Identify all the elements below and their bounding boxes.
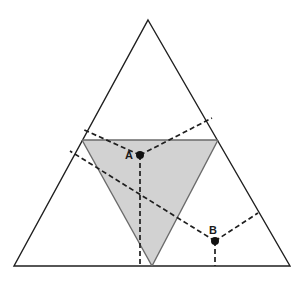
point-b-label: B	[209, 224, 217, 236]
point-a-label: A	[125, 149, 133, 161]
edge-b-upper-right	[215, 213, 258, 241]
geometry-figure: AB	[0, 0, 304, 283]
shaded-inverted-triangle	[82, 140, 218, 266]
point-a-marker	[136, 151, 144, 159]
diagram-canvas: AB	[0, 0, 304, 283]
point-b-marker	[211, 237, 219, 245]
